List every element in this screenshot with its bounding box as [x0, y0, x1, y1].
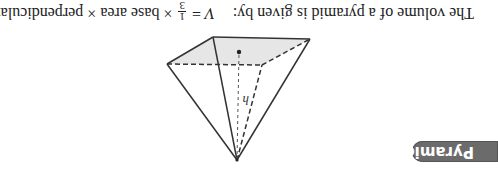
one-third-fraction: 1 3 [178, 1, 186, 22]
volume-formula: The volume of a pyramid is given by: V =… [0, 1, 474, 22]
formula-base-area: base area [100, 5, 159, 22]
formula-intro: The volume of a pyramid is given by: [233, 5, 474, 22]
height-label: h [243, 93, 250, 108]
base-center-dot [237, 50, 241, 54]
formula-perpendicular-height: perpendicular height [0, 5, 83, 22]
height-line [237, 52, 239, 160]
apex-dot [235, 158, 238, 161]
times-sign: × [87, 5, 96, 22]
formula-lhs: V [205, 5, 215, 22]
formula-equals: = [192, 5, 201, 22]
times-sign: × [163, 5, 172, 22]
